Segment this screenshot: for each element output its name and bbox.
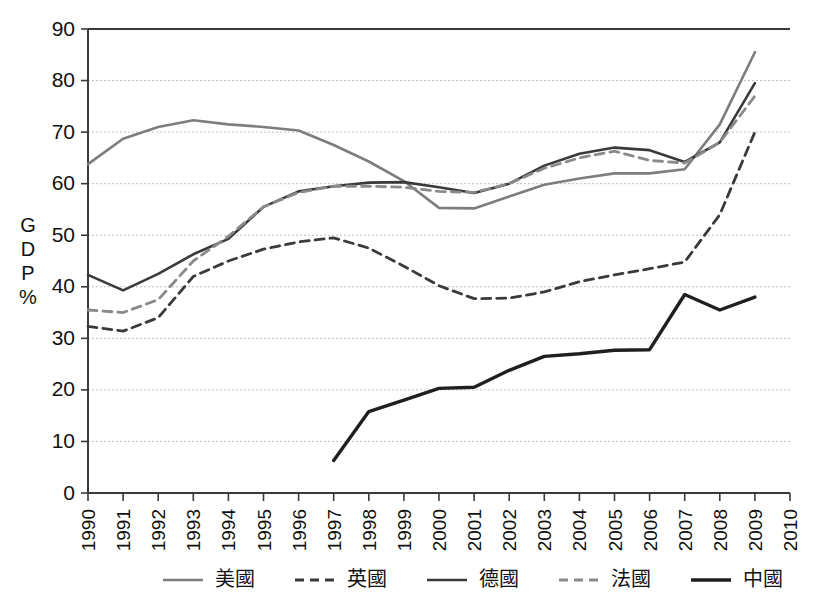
y-tick-label: 40 bbox=[52, 274, 75, 297]
y-tick-label: 20 bbox=[52, 377, 75, 400]
y-axis-title-char: % bbox=[19, 286, 37, 308]
legend-label-2: 英國 bbox=[347, 568, 387, 590]
y-tick-label: 70 bbox=[52, 120, 75, 143]
gridlines bbox=[88, 29, 790, 441]
x-tick-label: 1991 bbox=[113, 509, 134, 551]
x-tick-label: 2002 bbox=[499, 509, 520, 551]
x-tick-label: 2000 bbox=[429, 509, 450, 551]
x-tick-label: 1999 bbox=[394, 509, 415, 551]
gdp-line-chart: 0102030405060708090 19901991199219931994… bbox=[0, 0, 834, 605]
series-line-4 bbox=[88, 96, 755, 313]
y-tick-label: 10 bbox=[52, 429, 75, 452]
series-line-3 bbox=[88, 83, 755, 290]
legend-label-1: 美國 bbox=[215, 568, 255, 590]
x-tick-label: 1992 bbox=[148, 509, 169, 551]
y-tick-label: 60 bbox=[52, 171, 75, 194]
y-tick-label: 90 bbox=[52, 17, 75, 40]
x-tick-label: 2008 bbox=[710, 509, 731, 551]
x-tick-label: 2001 bbox=[464, 509, 485, 551]
y-axis-title-char: P bbox=[21, 262, 34, 284]
x-tick-label: 2005 bbox=[605, 509, 626, 551]
x-tick-label: 2006 bbox=[640, 509, 661, 551]
legend-label-4: 法國 bbox=[611, 568, 651, 590]
y-tick-label: 30 bbox=[52, 326, 75, 349]
x-tick-label: 1996 bbox=[289, 509, 310, 551]
y-axis-title-char: G bbox=[20, 214, 36, 236]
x-tick-label: 1993 bbox=[183, 509, 204, 551]
x-tick-label: 1997 bbox=[324, 509, 345, 551]
x-tick-label: 1990 bbox=[78, 509, 99, 551]
x-axis: 1990199119921993199419951996199719981999… bbox=[78, 493, 801, 551]
legend-label-3: 德國 bbox=[479, 568, 519, 590]
data-series bbox=[88, 52, 755, 460]
y-axis-title: GDP% bbox=[19, 214, 37, 308]
x-tick-label: 2003 bbox=[534, 509, 555, 551]
x-tick-label: 2004 bbox=[569, 509, 590, 552]
y-tick-label: 0 bbox=[63, 481, 75, 504]
y-tick-label: 50 bbox=[52, 223, 75, 246]
chart-legend: 美國英國德國法國中國 bbox=[163, 568, 783, 590]
legend-label-5: 中國 bbox=[743, 568, 783, 590]
y-axis: 0102030405060708090 bbox=[52, 17, 790, 504]
x-tick-label: 2009 bbox=[745, 509, 766, 551]
x-tick-label: 2007 bbox=[675, 509, 696, 551]
x-tick-label: 1994 bbox=[218, 509, 239, 552]
chart-canvas: 0102030405060708090 19901991199219931994… bbox=[0, 0, 834, 605]
y-axis-title-char: D bbox=[21, 238, 35, 260]
y-tick-label: 80 bbox=[52, 68, 75, 91]
series-line-5 bbox=[334, 295, 755, 461]
x-tick-label: 1998 bbox=[359, 509, 380, 551]
x-tick-label: 1995 bbox=[254, 509, 275, 551]
x-tick-label: 2010 bbox=[780, 509, 801, 551]
